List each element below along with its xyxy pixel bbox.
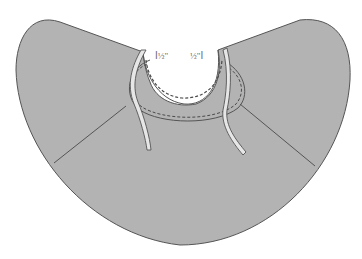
measure-bracket-icon: I <box>200 50 203 61</box>
left-measurement-label: I½" <box>155 51 168 61</box>
left-measure-value: ½" <box>158 51 168 61</box>
right-measure-value: ½" <box>190 51 200 61</box>
capelet-diagram: I½" ½"I <box>0 0 362 259</box>
neckline-stitch <box>146 60 222 98</box>
cape-body <box>16 20 350 245</box>
right-measurement-label: ½"I <box>190 51 203 61</box>
capelet-illustration <box>0 0 362 259</box>
